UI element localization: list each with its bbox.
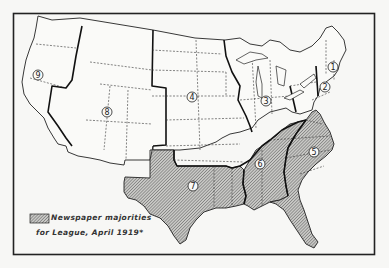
region-marker-4: 4 (187, 92, 197, 102)
region-marker-2: 2 (320, 82, 330, 92)
svg-text:6: 6 (257, 160, 262, 169)
svg-text:1: 1 (330, 63, 335, 72)
legend-swatch (30, 214, 49, 223)
region-marker-8: 8 (102, 107, 112, 117)
svg-text:2: 2 (322, 83, 327, 92)
region-marker-3: 3 (261, 96, 271, 106)
region-marker-1: 1 (328, 62, 338, 72)
svg-text:7: 7 (190, 182, 195, 191)
region-marker-5: 5 (309, 147, 319, 157)
svg-text:9: 9 (35, 71, 40, 80)
legend-label-line1: Newspaper majorities (51, 213, 152, 222)
region-marker-9: 9 (33, 70, 43, 80)
svg-text:8: 8 (104, 108, 109, 117)
region-marker-6: 6 (255, 159, 265, 169)
region-marker-7: 7 (188, 181, 198, 191)
legend-label-line2: for League, April 1919* (36, 228, 144, 237)
svg-text:5: 5 (311, 148, 316, 157)
svg-text:4: 4 (189, 93, 194, 102)
svg-text:3: 3 (263, 97, 268, 106)
